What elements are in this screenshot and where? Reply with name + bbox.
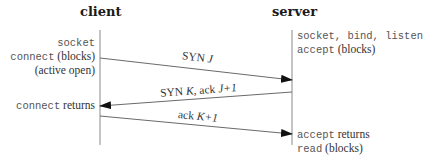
code-text: socket <box>57 37 95 49</box>
label-var: J+1 <box>218 81 237 94</box>
note-text: (blocks) <box>54 50 95 62</box>
code-text: connect <box>16 100 60 112</box>
code-text: read <box>297 143 322 155</box>
server-note-accept-returns: accept returns <box>297 128 370 142</box>
server-note-read-blocks: read (blocks) <box>297 142 363 156</box>
note-text: returns <box>60 99 95 111</box>
label-text: ack <box>178 108 198 122</box>
label-var: K+1 <box>196 110 218 124</box>
client-note-active-open: (active open) <box>35 64 95 77</box>
client-note-socket: socket <box>57 36 95 50</box>
note-text: (blocks) <box>335 43 376 55</box>
server-note-socket-bind-listen: socket, bind, listen <box>297 29 423 43</box>
note-text: (blocks) <box>322 142 363 154</box>
server-title: server <box>272 4 317 19</box>
label-text: , ack <box>193 83 218 97</box>
code-text: accept <box>297 44 335 56</box>
label-text: SYN <box>160 85 187 99</box>
client-note-connect-returns: connect returns <box>16 99 95 113</box>
client-note-connect-blocks: connect (blocks) <box>10 50 95 64</box>
code-text: socket, bind, listen <box>297 30 423 42</box>
client-title: client <box>80 4 122 19</box>
note-text: (active open) <box>35 64 95 76</box>
code-text: accept <box>297 129 335 141</box>
note-text: returns <box>335 128 370 140</box>
server-note-accept-blocks: accept (blocks) <box>297 43 375 57</box>
code-text: connect <box>10 51 54 63</box>
